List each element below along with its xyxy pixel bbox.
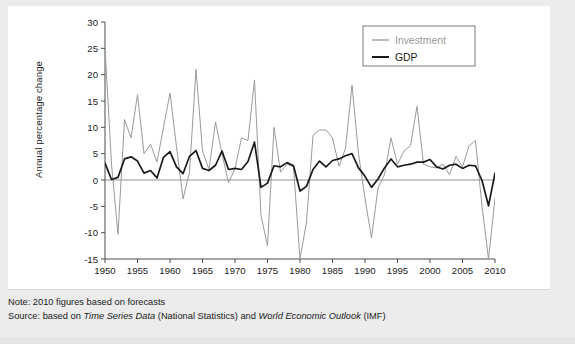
source-mid: (National Statistics) and — [155, 311, 258, 321]
x-tick-label: 2010 — [484, 265, 505, 276]
legend-box — [363, 26, 475, 66]
note-label: Note: — [8, 297, 30, 307]
note-text: 2010 figures based on forecasts — [30, 297, 165, 307]
y-tick-label: 0 — [93, 175, 98, 186]
footnotes: Note: 2010 figures based on forecasts So… — [8, 296, 553, 323]
legend-label-investment: Investment — [395, 35, 446, 46]
page-bottom-margin — [0, 337, 575, 344]
y-tick-label: -15 — [84, 254, 98, 265]
x-tick-label: 1965 — [192, 265, 213, 276]
x-tick-label: 1955 — [127, 265, 148, 276]
y-tick-label: 15 — [87, 96, 98, 107]
note-line: Note: 2010 figures based on forecasts — [8, 296, 553, 310]
x-tick-label: 1990 — [354, 265, 375, 276]
y-axis-label: Annual percentage change — [33, 30, 44, 210]
x-tick-label: 2005 — [452, 265, 473, 276]
source-title-2: World Economic Outlook — [259, 311, 361, 321]
x-tick-label: 1950 — [94, 265, 115, 276]
series-line-gdp — [105, 142, 495, 206]
x-tick-label: 1980 — [289, 265, 310, 276]
line-chart: -15-10-505101520253019501955196019651970… — [8, 6, 550, 289]
y-tick-label: 25 — [87, 43, 98, 54]
chart-card: Annual percentage change -15-10-50510152… — [8, 6, 550, 289]
x-tick-label: 1970 — [224, 265, 245, 276]
source-pre: based on — [40, 311, 83, 321]
x-tick-label: 1960 — [159, 265, 180, 276]
x-tick-label: 2000 — [419, 265, 440, 276]
x-tick-label: 1975 — [257, 265, 278, 276]
x-tick-label: 1995 — [387, 265, 408, 276]
figure-panel: Annual percentage change -15-10-50510152… — [0, 0, 575, 344]
series-line-investment — [105, 47, 495, 259]
source-post: (IMF) — [361, 311, 386, 321]
legend-label-gdp: GDP — [395, 52, 418, 63]
y-tick-label: -10 — [84, 227, 98, 238]
source-label: Source: — [8, 311, 40, 321]
y-tick-label: 5 — [93, 148, 98, 159]
plot-area: Annual percentage change -15-10-50510152… — [8, 6, 550, 289]
source-line: Source: based on Time Series Data (Natio… — [8, 310, 553, 324]
page-right-margin — [557, 0, 575, 344]
y-tick-label: 30 — [87, 17, 98, 28]
source-title-1: Time Series Data — [83, 311, 155, 321]
y-tick-label: -5 — [89, 201, 98, 212]
y-tick-label: 10 — [87, 122, 98, 133]
y-tick-label: 20 — [87, 69, 98, 80]
footer-divider — [8, 289, 550, 290]
x-tick-label: 1985 — [322, 265, 343, 276]
